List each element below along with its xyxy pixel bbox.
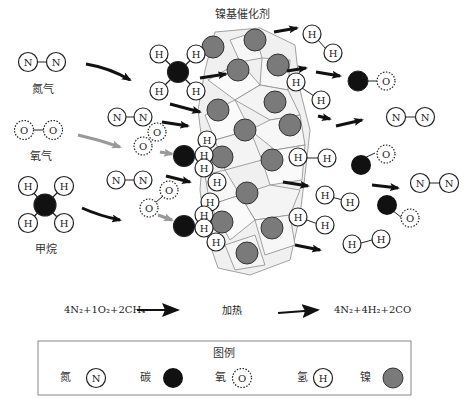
svg-text:H: H [24, 181, 33, 192]
arrow-icon [158, 215, 172, 220]
oxygen-molecule-reactant: O O [15, 121, 63, 140]
nickel-catalyst-diagram: 镍基催化剂 N [0, 0, 470, 408]
nitrogen-molecule: N N [108, 108, 152, 126]
legend-nitrogen-icon: N [87, 369, 106, 388]
svg-text:N: N [112, 175, 121, 186]
svg-text:H: H [60, 218, 69, 229]
legend-label-nickel: 镍 [360, 370, 371, 384]
svg-text:H: H [192, 86, 201, 97]
legend-label-nitrogen: 氮 [60, 370, 71, 384]
svg-text:H: H [321, 220, 330, 231]
svg-text:N: N [139, 112, 148, 123]
svg-text:H: H [200, 163, 209, 174]
legend-nickel-icon [383, 368, 403, 388]
svg-text:O: O [20, 125, 28, 136]
svg-text:N: N [92, 373, 101, 384]
diagram-title: 镍基催化剂 [215, 7, 270, 21]
svg-text:H: H [308, 29, 317, 40]
legend-label-oxygen: 氧 [215, 370, 226, 384]
arrow-icon [372, 185, 398, 188]
svg-text:N: N [445, 178, 454, 189]
svg-text:H: H [377, 234, 386, 245]
svg-text:N: N [421, 112, 430, 123]
arrow-icon [162, 122, 188, 126]
svg-text:H: H [203, 135, 212, 146]
legend-label-carbon: 碳 [140, 370, 151, 384]
arrow-icon [316, 72, 340, 76]
svg-text:O: O [406, 213, 414, 224]
legend-hydrogen-icon: H [314, 369, 333, 388]
carbon-monoxide-product: O [348, 71, 395, 91]
legend-oxygen-icon: O [233, 369, 252, 388]
svg-text:H: H [319, 373, 328, 384]
svg-text:H: H [346, 197, 355, 208]
svg-text:N: N [24, 57, 33, 68]
nitrogen-molecule-product: N N [411, 174, 459, 193]
svg-text:O: O [139, 141, 147, 152]
methane-label: 甲烷 [35, 242, 57, 256]
svg-text:H: H [323, 153, 332, 164]
legend-carbon-icon [163, 368, 183, 388]
arrow-icon [78, 135, 120, 147]
svg-text:H: H [294, 212, 303, 223]
svg-text:H: H [200, 210, 209, 221]
arrow-icon [274, 28, 297, 32]
nitrogen-label: 氮气 [32, 82, 54, 96]
svg-text:N: N [139, 175, 148, 186]
svg-text:H: H [292, 77, 301, 88]
svg-text:N: N [392, 112, 401, 123]
oxygen-molecule: O O [134, 123, 166, 155]
arrow-icon [86, 64, 130, 80]
hydrogen-molecule-product: H H [343, 230, 390, 253]
svg-text:O: O [238, 373, 246, 384]
arrow-icon [336, 120, 362, 126]
nitrogen-molecule-reactant: N N [19, 53, 66, 72]
svg-text:H: H [317, 95, 326, 106]
svg-text:O: O [49, 125, 57, 136]
arrow-icon [82, 208, 120, 220]
reaction-arrow-icon [278, 310, 318, 313]
carbon-monoxide-product: O [377, 195, 419, 227]
svg-text:H: H [329, 48, 338, 59]
arrow-icon [160, 152, 172, 154]
hydrogen-molecule-product: H H [316, 186, 359, 211]
svg-text:H: H [294, 152, 303, 163]
oxygen-label: 氧气 [30, 149, 52, 163]
svg-text:O: O [165, 185, 173, 196]
svg-text:H: H [213, 177, 222, 188]
legend-title: 图例 [213, 346, 235, 360]
svg-text:N: N [113, 112, 122, 123]
arrow-icon [318, 116, 330, 119]
svg-text:H: H [206, 197, 215, 208]
carbon-monoxide-product: O [351, 145, 395, 175]
svg-text:N: N [52, 57, 61, 68]
svg-text:H: H [155, 86, 164, 97]
svg-text:O: O [382, 76, 390, 87]
arrow-icon [170, 104, 200, 112]
nitrogen-molecule: N N [107, 171, 152, 189]
svg-text:H: H [60, 181, 69, 192]
equation-condition: 加热 [222, 304, 242, 316]
svg-text:H: H [321, 190, 330, 201]
arrow-icon [295, 245, 320, 250]
svg-text:O: O [145, 203, 153, 214]
hydrogen-molecule-product: H H [289, 148, 336, 167]
hydrogen-molecule-product: H H [303, 25, 342, 62]
legend-label-hydrogen: 氢 [297, 370, 308, 384]
svg-text:H: H [24, 218, 33, 229]
equation-products: 4N₂+4H₂+2CO [334, 304, 411, 315]
svg-text:H: H [200, 223, 209, 234]
svg-text:H: H [192, 49, 201, 60]
svg-text:H: H [348, 239, 357, 250]
svg-text:O: O [153, 127, 161, 138]
nitrogen-molecule-product: N N [387, 108, 435, 127]
svg-text:O: O [382, 149, 390, 160]
svg-text:N: N [416, 178, 425, 189]
svg-text:H: H [200, 150, 209, 161]
svg-text:H: H [212, 237, 221, 248]
svg-text:H: H [155, 49, 164, 60]
equation-reactants: 4N₂+1O₂+2CH₄ [64, 304, 145, 315]
